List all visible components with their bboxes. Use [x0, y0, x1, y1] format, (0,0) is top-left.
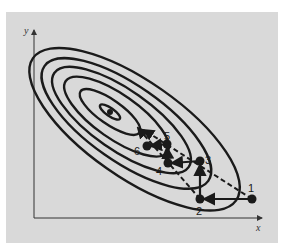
x-axis-label: x	[255, 222, 261, 233]
y-axis-label: y	[23, 25, 29, 36]
contours	[5, 19, 263, 240]
axes: y x	[23, 25, 262, 233]
contour-6	[5, 19, 263, 240]
point-label-4: 4	[156, 165, 162, 177]
point-label-5: 5	[164, 130, 170, 142]
point-2	[196, 195, 205, 204]
minimum-point	[107, 109, 113, 115]
point-1	[248, 195, 257, 204]
point-label-1: 1	[248, 182, 254, 194]
contour-diagram: y x 1 2 3 4 5 6	[0, 0, 286, 247]
point-4	[164, 159, 173, 168]
point-6	[143, 142, 152, 151]
point-label-6: 6	[134, 145, 140, 157]
point-label-2: 2	[196, 205, 202, 217]
point-label-3: 3	[205, 154, 211, 166]
point-3	[196, 157, 205, 166]
